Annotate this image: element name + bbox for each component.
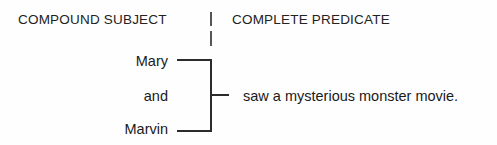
column-divider-dashed-line	[210, 12, 212, 46]
divider-segment-upper	[210, 12, 212, 26]
bracket-middle-stem	[212, 94, 229, 96]
bracket-top-arm	[177, 59, 212, 61]
sentence-diagram: COMPOUND SUBJECT COMPLETE PREDICATE Mary…	[0, 0, 497, 145]
compound-subject-bracket	[177, 59, 213, 132]
bracket-bottom-arm	[177, 130, 212, 132]
compound-subject-header: COMPOUND SUBJECT	[18, 12, 167, 27]
complete-predicate-header: COMPLETE PREDICATE	[232, 12, 390, 27]
subject-word-mary: Mary	[136, 53, 168, 69]
subject-conjunction-and: and	[144, 88, 168, 104]
subject-word-marvin: Marvin	[124, 121, 168, 137]
divider-segment-lower	[210, 31, 212, 46]
complete-predicate-text: saw a mysterious monster movie.	[243, 88, 458, 104]
